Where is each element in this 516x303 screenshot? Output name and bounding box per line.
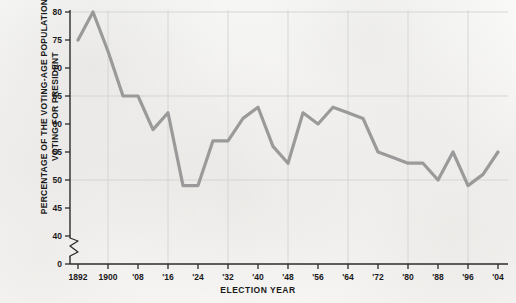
y-axis-title-line-1: PERCENTAGE OF THE VOTING-AGE POPULATION	[39, 0, 50, 232]
svg-text:'16: '16	[162, 272, 174, 282]
svg-text:'04: '04	[492, 272, 504, 282]
axis-lines	[70, 10, 508, 264]
svg-text:'48: '48	[282, 272, 294, 282]
svg-text:1892: 1892	[69, 272, 88, 282]
x-axis-ticks	[78, 264, 498, 269]
svg-text:'64: '64	[342, 272, 354, 282]
svg-text:'32: '32	[222, 272, 234, 282]
svg-text:'80: '80	[402, 272, 414, 282]
svg-text:0: 0	[57, 259, 62, 269]
svg-text:'72: '72	[372, 272, 384, 282]
x-axis-tick-labels: 18921900'08'16'24'32'40'48'56'64'72'80'8…	[69, 272, 504, 282]
svg-text:'40: '40	[252, 272, 264, 282]
x-axis-title: ELECTION YEAR	[0, 285, 516, 295]
y-axis-ticks	[65, 12, 70, 264]
svg-text:1900: 1900	[99, 272, 118, 282]
svg-text:'24: '24	[192, 272, 204, 282]
y-axis-break-symbol	[70, 238, 78, 256]
svg-text:40: 40	[53, 231, 63, 241]
svg-text:'96: '96	[462, 272, 474, 282]
y-axis-title: PERCENTAGE OF THE VOTING-AGE POPULATION …	[39, 0, 60, 232]
line-chart-plot: 0404550556065707580 18921900'08'16'24'32…	[0, 0, 516, 303]
svg-text:'88: '88	[432, 272, 444, 282]
vertical-gridlines	[108, 10, 468, 264]
chart-page: 0404550556065707580 18921900'08'16'24'32…	[0, 0, 516, 303]
y-axis-title-line-2: VOTING FOR PRESIDENT	[49, 0, 60, 232]
svg-text:'56: '56	[312, 272, 324, 282]
svg-text:'08: '08	[132, 272, 144, 282]
